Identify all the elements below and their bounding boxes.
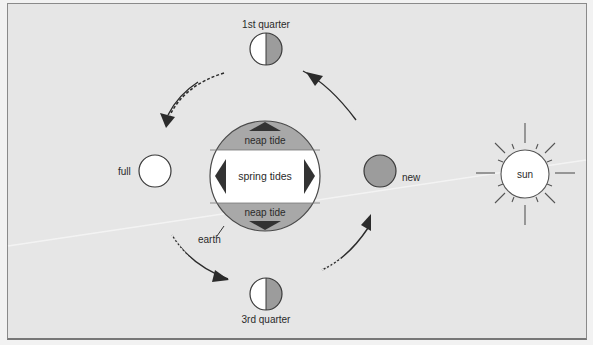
moon-new bbox=[364, 155, 396, 187]
sun-label: sun bbox=[517, 169, 533, 180]
neap-tide-bottom-label: neap tide bbox=[244, 207, 286, 218]
first-quarter-label: 1st quarter bbox=[242, 19, 290, 30]
tides-diagram: neap tide spring tides neap tide earth 1… bbox=[0, 0, 593, 345]
arrowhead-icon bbox=[361, 214, 371, 231]
new-label: new bbox=[402, 172, 421, 183]
moon-first-quarter bbox=[250, 33, 282, 65]
spring-tides-label: spring tides bbox=[238, 170, 292, 182]
arrowhead-icon bbox=[160, 113, 175, 128]
third-quarter-label: 3rd quarter bbox=[242, 314, 292, 325]
moon-third-quarter bbox=[250, 278, 282, 310]
earth: neap tide spring tides neap tide bbox=[208, 119, 323, 234]
orbit-arrow-top-left bbox=[160, 73, 224, 128]
orbit-arrow-bottom-right bbox=[322, 214, 371, 270]
orbit-arrow-top-right bbox=[303, 71, 361, 121]
moon-full bbox=[139, 155, 171, 187]
arrowhead-icon bbox=[212, 270, 229, 282]
neap-tide-top-label: neap tide bbox=[244, 135, 286, 146]
arrowhead-icon bbox=[306, 72, 323, 86]
earth-label: earth bbox=[198, 234, 221, 245]
full-label: full bbox=[118, 166, 131, 177]
